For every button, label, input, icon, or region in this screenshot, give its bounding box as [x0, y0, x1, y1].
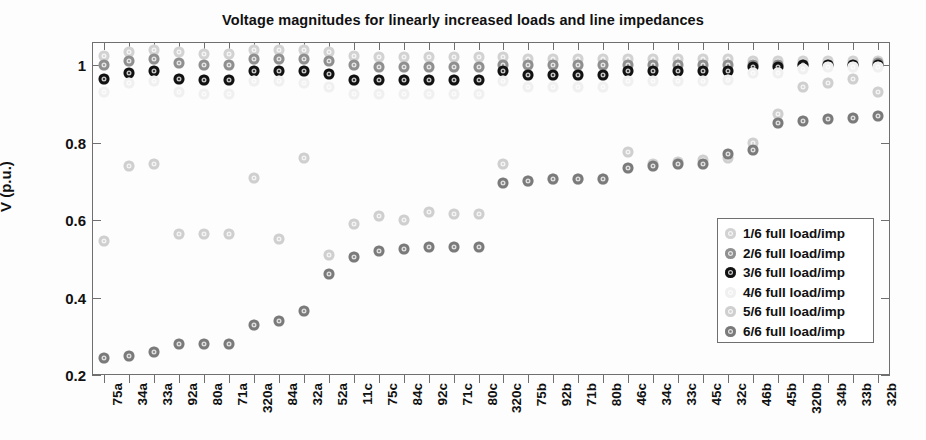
- x-tick-label: 80b: [609, 383, 624, 406]
- data-point: [274, 54, 285, 65]
- x-tick-mark-top: [404, 42, 405, 50]
- data-point: [772, 118, 783, 129]
- data-point: [797, 116, 808, 127]
- x-tick-label: 71a: [235, 383, 250, 406]
- data-point: [747, 145, 758, 156]
- data-point: [323, 269, 334, 280]
- legend-label: 4/6 full load/imp: [743, 285, 845, 300]
- x-tick-mark-top: [553, 42, 554, 50]
- legend-item[interactable]: 2/6 full load/imp: [725, 244, 867, 264]
- x-tick-mark-top: [853, 42, 854, 50]
- x-tick-mark-top: [379, 42, 380, 50]
- legend-marker-icon: [725, 306, 736, 317]
- data-point: [548, 69, 559, 80]
- data-point: [847, 112, 858, 123]
- x-tick-mark-top: [429, 42, 430, 50]
- legend-label: 2/6 full load/imp: [743, 246, 845, 261]
- data-point: [348, 89, 359, 100]
- x-tick-label: 32c: [734, 383, 749, 406]
- x-tick-label: 34c: [659, 383, 674, 406]
- data-point: [373, 62, 384, 73]
- data-point: [448, 89, 459, 100]
- data-point: [323, 81, 334, 92]
- legend-item[interactable]: 1/6 full load/imp: [725, 224, 867, 244]
- x-tick-mark-top: [454, 42, 455, 50]
- data-point: [448, 209, 459, 220]
- x-tick-label: 34b: [834, 383, 849, 406]
- x-tick-label: 46c: [634, 383, 649, 406]
- data-point: [673, 75, 684, 86]
- data-point: [747, 67, 758, 78]
- legend-item[interactable]: 3/6 full load/imp: [725, 263, 867, 283]
- data-point: [673, 158, 684, 169]
- x-tick-mark: [179, 375, 180, 383]
- x-tick-label: 32a: [310, 383, 325, 406]
- legend-item[interactable]: 6/6 full load/imp: [725, 322, 867, 342]
- data-point: [174, 46, 185, 57]
- x-tick-mark: [803, 375, 804, 383]
- data-point: [298, 54, 309, 65]
- data-point: [174, 58, 185, 69]
- data-point: [398, 89, 409, 100]
- data-point: [124, 350, 135, 361]
- legend-marker-icon: [725, 248, 736, 259]
- data-point: [398, 74, 409, 85]
- x-tick-mark: [379, 375, 380, 383]
- data-point: [323, 249, 334, 260]
- x-tick-mark: [703, 375, 704, 383]
- data-point: [598, 69, 609, 80]
- data-point: [274, 75, 285, 86]
- data-point: [224, 60, 235, 71]
- x-tick-mark: [878, 375, 879, 383]
- data-point: [348, 60, 359, 71]
- x-tick-mark: [279, 375, 280, 383]
- data-point: [598, 81, 609, 92]
- x-tick-label: 46b: [759, 383, 774, 406]
- x-tick-label: 32b: [884, 383, 899, 406]
- legend-item[interactable]: 5/6 full load/imp: [725, 302, 867, 322]
- data-point: [149, 75, 160, 86]
- x-tick-mark: [429, 375, 430, 383]
- x-tick-mark: [354, 375, 355, 383]
- x-tick-label: 75c: [385, 383, 400, 406]
- data-point: [373, 246, 384, 257]
- x-tick-label: 33a: [160, 383, 175, 406]
- data-point: [224, 228, 235, 239]
- data-point: [697, 158, 708, 169]
- y-tick-mark: [92, 298, 101, 299]
- x-tick-mark: [229, 375, 230, 383]
- data-point: [822, 77, 833, 88]
- data-point: [648, 75, 659, 86]
- data-point: [623, 162, 634, 173]
- data-point: [523, 81, 534, 92]
- data-point: [423, 89, 434, 100]
- data-point: [523, 176, 534, 187]
- legend-marker-icon: [725, 228, 736, 239]
- x-tick-mark: [653, 375, 654, 383]
- data-point: [448, 74, 459, 85]
- data-point: [124, 160, 135, 171]
- x-tick-label: 75a: [110, 383, 125, 406]
- x-tick-mark: [603, 375, 604, 383]
- data-point: [822, 114, 833, 125]
- x-tick-mark-top: [628, 42, 629, 50]
- x-tick-mark: [553, 375, 554, 383]
- legend-item[interactable]: 4/6 full load/imp: [725, 283, 867, 303]
- data-point: [623, 147, 634, 158]
- legend-label: 1/6 full load/imp: [743, 226, 845, 241]
- x-tick-mark-top: [479, 42, 480, 50]
- data-point: [772, 67, 783, 78]
- data-point: [199, 48, 210, 59]
- data-point: [199, 89, 210, 100]
- data-point: [473, 89, 484, 100]
- data-point: [473, 74, 484, 85]
- x-tick-label: 45c: [709, 383, 724, 406]
- x-tick-mark-top: [653, 42, 654, 50]
- data-point: [174, 228, 185, 239]
- legend-marker-icon: [725, 267, 736, 278]
- x-tick-mark-top: [678, 42, 679, 50]
- legend-marker-icon: [725, 326, 736, 337]
- x-tick-mark: [479, 375, 480, 383]
- x-tick-label: 320a: [260, 383, 275, 413]
- data-point: [498, 178, 509, 189]
